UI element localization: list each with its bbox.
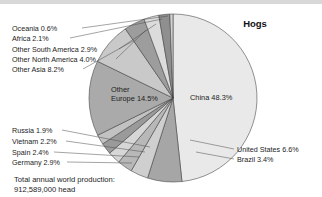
- pie-chart-svg: Hogs China 48.3% Other Europe 14.5% Ocea…: [0, 0, 322, 197]
- slice-label-spain: Spain 2.4%: [12, 148, 49, 157]
- slice-label-other-europe-line1: Other: [111, 85, 130, 94]
- slice-label-china: China 48.3%: [190, 93, 233, 102]
- slice-label-africa: Africa 2.1%: [12, 34, 49, 43]
- slice-label-other-north-america: Other North America 4.0%: [12, 55, 96, 64]
- slice-label-other-asia: Other Asia 8.2%: [12, 65, 65, 74]
- total-production-line1: Total annual world production:: [14, 175, 115, 184]
- slice-label-united-states: United States 6.6%: [237, 145, 299, 154]
- slice-label-other-europe-line2: Europe 14.5%: [111, 94, 158, 103]
- chart-title: Hogs: [243, 18, 267, 29]
- slice-label-brazil: Brazil 3.4%: [237, 155, 274, 164]
- slice-label-other-south-america: Other South America 2.9%: [12, 45, 98, 54]
- slice-label-oceania: Oceania 0.6%: [12, 24, 58, 33]
- slice-label-russia: Russia 1.9%: [12, 126, 53, 135]
- slice-label-vietnam: Vietnam 2.2%: [12, 137, 57, 146]
- hogs-pie-chart: Hogs China 48.3% Other Europe 14.5% Ocea…: [0, 0, 322, 197]
- total-production-line2: 912,589,000 head: [14, 185, 75, 194]
- slice-label-germany: Germany 2.9%: [12, 158, 61, 167]
